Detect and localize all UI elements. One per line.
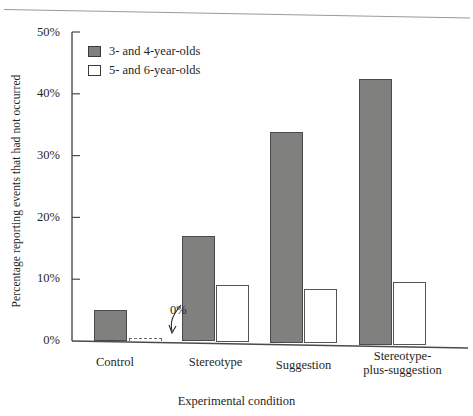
y-tick-label-0: 0% xyxy=(18,333,60,348)
annotation-arrowhead xyxy=(169,325,176,333)
x-tick-label-control: Control xyxy=(70,356,160,370)
y-tick-label-20: 20% xyxy=(18,210,60,225)
legend-swatch-hollow-icon xyxy=(88,65,101,76)
x-tick-label-line-2: plus-suggestion xyxy=(340,364,465,378)
bar-stereotype-3-and-4-year-olds xyxy=(182,236,215,341)
legend-item-1: 5- and 6-year-olds xyxy=(88,61,200,80)
bar-suggestion-3-and-4-year-olds xyxy=(270,132,303,343)
bar-suggestion-5-and-6-year-olds xyxy=(304,289,337,343)
legend-label-0: 3- and 4-year-olds xyxy=(109,44,200,59)
y-tick-label-50: 50% xyxy=(18,25,60,40)
bar-stereotype-plus-suggestion-3-and-4-year-olds xyxy=(359,79,392,345)
page-rule-svg xyxy=(4,7,470,21)
legend: 3- and 4-year-olds 5- and 6-year-olds xyxy=(88,42,200,80)
x-tick-label-suggestion: Suggestion xyxy=(256,359,351,373)
bar-control-3-and-4-year-olds xyxy=(94,310,127,341)
bar-chart-figure: Percentage reporting events that had not… xyxy=(0,0,473,416)
bar-stereotype-plus-suggestion-5-and-6-year-olds xyxy=(393,282,426,345)
page-rule xyxy=(4,7,470,21)
x-tick-label-line-1: Stereotype- xyxy=(340,350,465,364)
y-tick-label-40: 40% xyxy=(18,86,60,101)
x-axis-title: Experimental condition xyxy=(0,394,473,409)
x-tick-label-stereotype: Stereotype xyxy=(168,356,263,370)
legend-swatch-filled-icon xyxy=(88,46,101,57)
zero-percent-annotation: 0% xyxy=(170,303,187,318)
legend-item-0: 3- and 4-year-olds xyxy=(88,42,200,61)
y-tick-label-10: 10% xyxy=(18,271,60,286)
bar-control-5-and-6-year-olds xyxy=(129,338,162,341)
bar-stereotype-5-and-6-year-olds xyxy=(216,285,249,342)
x-tick-label-stereotype-plus-suggestion: Stereotype- plus-suggestion xyxy=(340,350,465,377)
legend-label-1: 5- and 6-year-olds xyxy=(109,63,200,78)
y-tick-label-30: 30% xyxy=(18,148,60,163)
